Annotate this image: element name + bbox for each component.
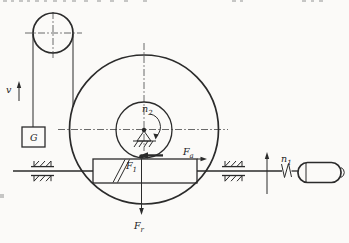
wheel-rotation: n2 — [142, 103, 160, 140]
worm-gear-hoist-diagram: v G n2 — [0, 0, 349, 243]
worm-rotation-arrow — [265, 152, 269, 194]
radial-force-label: Fr — [133, 220, 145, 234]
axial-force-arrowhead-icon — [201, 157, 208, 162]
mechanism-diagram: v G n2 — [0, 0, 349, 243]
tangential-force-label: F1 — [125, 160, 137, 174]
velocity-label: v — [6, 84, 12, 95]
pivot-hatching — [134, 141, 153, 147]
bearing-right-lower-pad — [222, 176, 245, 182]
worm-speed-label: n1 — [281, 153, 292, 167]
radial-force-arrowhead-icon — [139, 208, 144, 215]
velocity-arrow: v — [6, 81, 21, 101]
motor — [298, 163, 344, 183]
worm-wheel — [58, 43, 228, 204]
weight-label: G — [30, 132, 38, 143]
cropped-text-artifact — [0, 0, 323, 198]
weight-block: G — [22, 127, 45, 147]
bearing-right-upper-pad — [222, 161, 245, 167]
shaft-coupling: n1 — [281, 153, 292, 178]
bearing-left-upper-pad — [31, 161, 54, 167]
pivot-support — [133, 131, 156, 147]
motor-body — [298, 163, 341, 183]
worm — [93, 159, 197, 183]
velocity-arrowhead-icon — [17, 81, 21, 88]
worm-rotation-arrowhead-icon — [265, 152, 269, 159]
wheel-rotation-arc — [150, 114, 160, 136]
axial-force-label: Fa — [182, 146, 194, 160]
wheel-rotation-arrowhead-icon — [153, 134, 158, 140]
worm-body — [93, 159, 197, 183]
bearing-left-lower-pad — [31, 176, 54, 182]
